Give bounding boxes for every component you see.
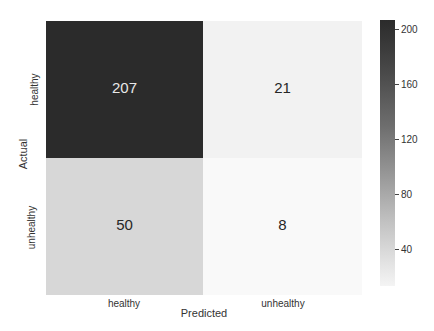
y-tick-healthy: healthy <box>29 73 40 105</box>
y-axis-label: Actual <box>17 139 29 170</box>
colorbar-tick-label: 40 <box>401 244 412 255</box>
colorbar-tick <box>395 249 399 250</box>
cell-unhealthy-healthy: 50 <box>46 158 203 295</box>
colorbar-tick-label: 120 <box>401 134 418 145</box>
colorbar-tick-label: 80 <box>401 189 412 200</box>
cell-healthy-healthy: 207 <box>46 21 203 158</box>
x-tick-healthy: healthy <box>108 298 140 309</box>
colorbar-tick <box>395 194 399 195</box>
x-tick-unhealthy: unhealthy <box>261 298 304 309</box>
x-axis-label: Predicted <box>181 307 227 319</box>
colorbar-tick <box>395 139 399 140</box>
cell-unhealthy-unhealthy: 8 <box>203 158 362 295</box>
colorbar-tick <box>395 29 399 30</box>
confusion-matrix-figure: 207 21 50 8 healthy unhealthy Actual hea… <box>0 0 434 331</box>
colorbar-tick-label: 200 <box>401 24 418 35</box>
cell-healthy-unhealthy: 21 <box>203 21 362 158</box>
cell-value: 8 <box>278 216 286 233</box>
cell-value: 207 <box>112 79 137 96</box>
cell-value: 50 <box>116 216 133 233</box>
colorbar-tick-label: 160 <box>401 79 418 90</box>
colorbar-tick <box>395 84 399 85</box>
colorbar <box>380 20 395 286</box>
cell-value: 21 <box>274 79 291 96</box>
y-tick-unhealthy: unhealthy <box>26 206 37 249</box>
heatmap-grid: 207 21 50 8 <box>46 21 362 295</box>
